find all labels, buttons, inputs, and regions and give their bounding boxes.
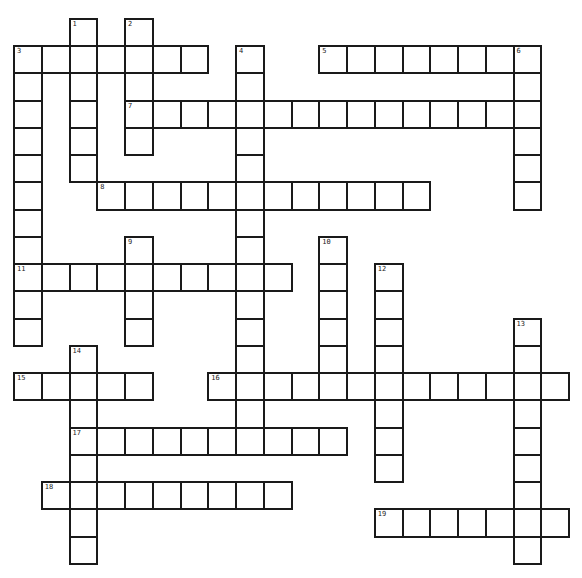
grid-cell[interactable] bbox=[374, 318, 404, 347]
grid-cell[interactable] bbox=[291, 100, 321, 129]
grid-cell[interactable]: 8 bbox=[96, 181, 126, 210]
grid-cell[interactable] bbox=[13, 181, 43, 210]
grid-cell[interactable] bbox=[291, 427, 321, 456]
grid-cell[interactable]: 17 bbox=[69, 427, 99, 456]
grid-cell[interactable] bbox=[513, 508, 543, 537]
grid-cell[interactable] bbox=[374, 454, 404, 483]
grid-cell[interactable] bbox=[69, 372, 99, 401]
grid-cell[interactable] bbox=[513, 481, 543, 510]
grid-cell[interactable] bbox=[69, 536, 99, 565]
grid-cell[interactable]: 3 bbox=[13, 45, 43, 74]
grid-cell[interactable] bbox=[207, 181, 237, 210]
grid-cell[interactable] bbox=[96, 481, 126, 510]
grid-cell[interactable] bbox=[235, 209, 265, 238]
grid-cell[interactable] bbox=[207, 263, 237, 292]
grid-cell[interactable] bbox=[235, 318, 265, 347]
grid-cell[interactable] bbox=[485, 508, 515, 537]
grid-cell[interactable] bbox=[124, 427, 154, 456]
grid-cell[interactable] bbox=[346, 181, 376, 210]
grid-cell[interactable]: 18 bbox=[41, 481, 71, 510]
grid-cell[interactable] bbox=[124, 481, 154, 510]
grid-cell[interactable] bbox=[235, 427, 265, 456]
grid-cell[interactable] bbox=[96, 263, 126, 292]
grid-cell[interactable] bbox=[235, 399, 265, 428]
grid-cell[interactable] bbox=[235, 236, 265, 265]
grid-cell[interactable] bbox=[374, 345, 404, 374]
grid-cell[interactable] bbox=[235, 372, 265, 401]
grid-cell[interactable] bbox=[180, 481, 210, 510]
grid-cell[interactable] bbox=[13, 318, 43, 347]
grid-cell[interactable] bbox=[124, 181, 154, 210]
grid-cell[interactable]: 10 bbox=[318, 236, 348, 265]
grid-cell[interactable] bbox=[457, 508, 487, 537]
grid-cell[interactable] bbox=[152, 481, 182, 510]
grid-cell[interactable] bbox=[374, 100, 404, 129]
grid-cell[interactable] bbox=[318, 372, 348, 401]
grid-cell[interactable] bbox=[13, 72, 43, 101]
grid-cell[interactable] bbox=[69, 154, 99, 183]
grid-cell[interactable] bbox=[346, 372, 376, 401]
grid-cell[interactable] bbox=[235, 72, 265, 101]
grid-cell[interactable] bbox=[69, 100, 99, 129]
grid-cell[interactable] bbox=[96, 45, 126, 74]
grid-cell[interactable] bbox=[540, 372, 570, 401]
grid-cell[interactable]: 16 bbox=[207, 372, 237, 401]
grid-cell[interactable] bbox=[291, 181, 321, 210]
grid-cell[interactable] bbox=[513, 100, 543, 129]
grid-cell[interactable] bbox=[235, 481, 265, 510]
grid-cell[interactable] bbox=[374, 427, 404, 456]
grid-cell[interactable] bbox=[180, 427, 210, 456]
grid-cell[interactable] bbox=[235, 100, 265, 129]
grid-cell[interactable] bbox=[485, 372, 515, 401]
grid-cell[interactable] bbox=[429, 100, 459, 129]
grid-cell[interactable] bbox=[41, 263, 71, 292]
grid-cell[interactable] bbox=[207, 100, 237, 129]
grid-cell[interactable] bbox=[374, 45, 404, 74]
grid-cell[interactable] bbox=[13, 290, 43, 319]
grid-cell[interactable] bbox=[13, 209, 43, 238]
grid-cell[interactable] bbox=[235, 345, 265, 374]
grid-cell[interactable] bbox=[124, 72, 154, 101]
grid-cell[interactable] bbox=[485, 100, 515, 129]
grid-cell[interactable] bbox=[235, 154, 265, 183]
grid-cell[interactable] bbox=[69, 127, 99, 156]
grid-cell[interactable] bbox=[124, 372, 154, 401]
grid-cell[interactable] bbox=[69, 399, 99, 428]
grid-cell[interactable] bbox=[263, 372, 293, 401]
grid-cell[interactable] bbox=[513, 72, 543, 101]
grid-cell[interactable]: 4 bbox=[235, 45, 265, 74]
grid-cell[interactable] bbox=[457, 372, 487, 401]
grid-cell[interactable] bbox=[402, 508, 432, 537]
grid-cell[interactable] bbox=[429, 508, 459, 537]
grid-cell[interactable] bbox=[346, 100, 376, 129]
grid-cell[interactable] bbox=[513, 427, 543, 456]
grid-cell[interactable] bbox=[41, 372, 71, 401]
grid-cell[interactable] bbox=[207, 481, 237, 510]
grid-cell[interactable] bbox=[263, 181, 293, 210]
grid-cell[interactable] bbox=[96, 372, 126, 401]
grid-cell[interactable] bbox=[318, 100, 348, 129]
grid-cell[interactable] bbox=[346, 45, 376, 74]
grid-cell[interactable] bbox=[263, 481, 293, 510]
grid-cell[interactable] bbox=[235, 127, 265, 156]
grid-cell[interactable] bbox=[513, 345, 543, 374]
grid-cell[interactable] bbox=[429, 45, 459, 74]
grid-cell[interactable]: 6 bbox=[513, 45, 543, 74]
grid-cell[interactable] bbox=[429, 372, 459, 401]
grid-cell[interactable] bbox=[540, 508, 570, 537]
grid-cell[interactable] bbox=[374, 399, 404, 428]
grid-cell[interactable]: 15 bbox=[13, 372, 43, 401]
grid-cell[interactable]: 5 bbox=[318, 45, 348, 74]
grid-cell[interactable] bbox=[318, 318, 348, 347]
grid-cell[interactable] bbox=[13, 236, 43, 265]
grid-cell[interactable] bbox=[13, 154, 43, 183]
grid-cell[interactable] bbox=[180, 263, 210, 292]
grid-cell[interactable] bbox=[124, 263, 154, 292]
grid-cell[interactable] bbox=[152, 45, 182, 74]
grid-cell[interactable]: 1 bbox=[69, 18, 99, 47]
grid-cell[interactable] bbox=[263, 263, 293, 292]
grid-cell[interactable] bbox=[124, 45, 154, 74]
grid-cell[interactable]: 12 bbox=[374, 263, 404, 292]
grid-cell[interactable] bbox=[69, 454, 99, 483]
grid-cell[interactable] bbox=[374, 290, 404, 319]
